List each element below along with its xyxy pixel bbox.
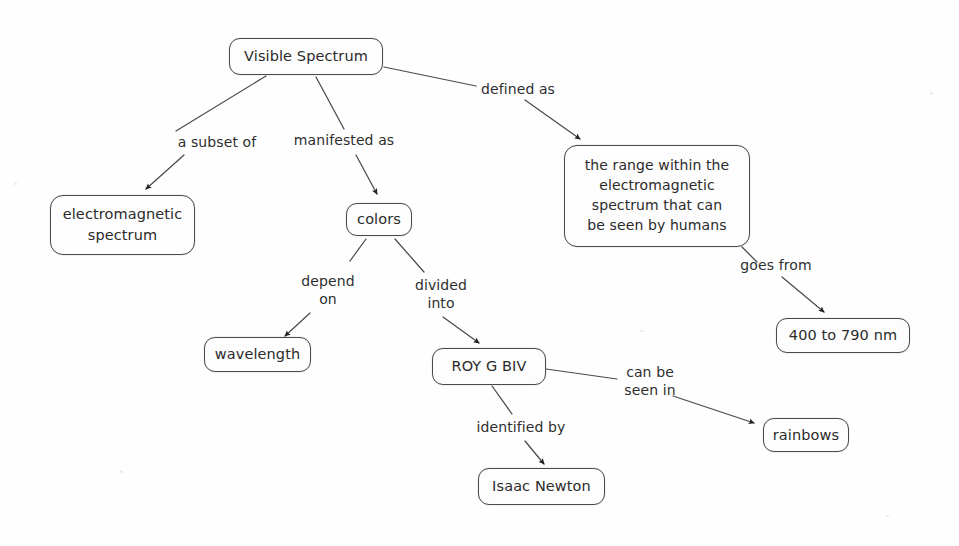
node-isaac-newton[interactable]: Isaac Newton — [478, 468, 605, 505]
edge-line-subset-lower — [146, 155, 184, 189]
node-rainbows[interactable]: rainbows — [763, 418, 849, 452]
edge-line-identifiedby-lower — [525, 441, 544, 464]
node-definition[interactable]: the range within the electromagnetic spe… — [564, 145, 750, 247]
edge-line-dependon-lower — [285, 313, 310, 336]
edge-label-identified-by: identified by — [470, 418, 572, 436]
node-colors[interactable]: colors — [346, 203, 412, 236]
edge-label-defined-as: defined as — [477, 80, 559, 98]
edge-label-can-be-seen-in: can be seen in — [620, 363, 680, 400]
edge-label-divided-into: divided into — [410, 276, 472, 313]
scan-speck — [14, 182, 17, 185]
edge-label-depend-on: depend on — [297, 272, 359, 309]
node-electromagnetic-spectrum[interactable]: electromagnetic spectrum — [50, 195, 195, 255]
edge-line-dividedinto-lower — [443, 317, 479, 343]
edge-label-a-subset-of: a subset of — [167, 133, 267, 151]
node-visible-spectrum[interactable]: Visible Spectrum — [229, 38, 383, 75]
node-wavelength[interactable]: wavelength — [204, 337, 311, 372]
scan-speck — [930, 92, 933, 95]
edge-line-canbeseen-upper — [546, 369, 617, 379]
edge-line-dependon-upper — [350, 239, 366, 261]
edge-line-goesfrom-lower — [782, 277, 824, 312]
edge-line-subset-upper — [176, 76, 266, 131]
edge-line-defined-upper — [384, 67, 476, 86]
edge-line-manifested-lower — [356, 155, 377, 194]
scan-speck — [640, 330, 644, 332]
edge-line-manifested-upper — [316, 77, 344, 129]
edge-line-defined-lower — [525, 100, 580, 139]
edge-label-goes-from: goes from — [737, 256, 815, 274]
concept-map-canvas: Visible Spectrum electromagnetic spectru… — [0, 0, 959, 546]
scan-speck — [120, 470, 123, 473]
node-roy-g-biv[interactable]: ROY G BIV — [432, 348, 546, 385]
edge-line-canbeseen-lower — [673, 396, 754, 423]
node-range[interactable]: 400 to 790 nm — [776, 318, 910, 353]
edge-line-identifiedby-upper — [492, 386, 512, 414]
edge-line-dividedinto-upper — [395, 239, 424, 272]
scan-speck — [886, 515, 889, 517]
edge-label-manifested-as: manifested as — [286, 131, 402, 149]
